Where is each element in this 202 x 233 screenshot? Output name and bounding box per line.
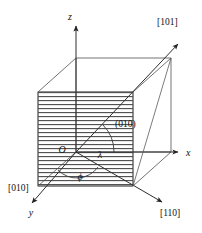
origin-label: O: [58, 144, 65, 155]
angle-label-phi: ϕ: [77, 171, 82, 182]
construction-line-diagonal: [133, 58, 171, 186]
axis-y-label: y: [28, 207, 34, 218]
plane-label-010: (010): [115, 119, 136, 130]
direction-label-110: [110]: [160, 208, 180, 218]
axis-z-label: z: [67, 11, 72, 22]
cube-edge-bottom-right: [133, 152, 171, 186]
cube-edge-top-right: [133, 58, 171, 92]
direction-label-101: [101]: [157, 17, 178, 27]
crystal-diagram-canvas: z x y O [101] [110] [010] (010) λ ϕ: [0, 0, 202, 233]
direction-label-010: [010]: [8, 183, 29, 193]
cube-edge-top-left: [38, 58, 76, 92]
construction-lines: [133, 58, 171, 186]
crystal-diagram-figure: z x y O [101] [110] [010] (010) λ ϕ: [0, 0, 202, 233]
angle-label-lambda: λ: [97, 149, 103, 160]
axis-x-label: x: [185, 147, 191, 158]
